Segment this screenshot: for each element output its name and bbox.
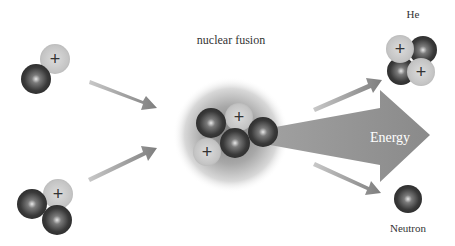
fusion-diagram: nuclear fusion + + Energy + + — [0, 0, 455, 246]
plus-icon: + — [50, 49, 61, 69]
neutron — [21, 64, 51, 94]
neutron — [248, 117, 278, 147]
neutron — [17, 189, 47, 219]
arrow-in-top — [89, 80, 157, 110]
neutron — [196, 108, 226, 138]
energy-label: Energy — [370, 130, 410, 145]
plus-icon: + — [202, 142, 213, 162]
plus-icon: + — [395, 39, 406, 59]
neutron — [42, 205, 72, 235]
product-helium: + + — [386, 35, 437, 86]
neutron — [220, 128, 250, 158]
plus-icon: + — [53, 184, 64, 204]
neutron-label: Neutron — [390, 222, 427, 234]
product-neutron — [394, 185, 422, 213]
arrow-out-helium — [313, 78, 382, 112]
arrow-in-bottom — [88, 146, 157, 182]
plus-icon: + — [234, 107, 245, 127]
reactant-tritium: + — [17, 179, 73, 235]
diagram-title: nuclear fusion — [197, 33, 265, 47]
energy-arrow: Energy — [270, 90, 430, 182]
helium-label: He — [407, 8, 420, 20]
plus-icon: + — [416, 62, 427, 82]
reactant-deuterium: + — [21, 44, 70, 94]
arrow-out-neutron — [313, 162, 381, 195]
